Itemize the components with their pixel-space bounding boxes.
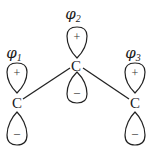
orbital-phi1: φ1 + C – (6, 44, 27, 145)
carbon-atom-phi1: C (12, 95, 22, 111)
bond-c2-c3 (83, 68, 129, 99)
plus-sign-phi3: + (132, 66, 139, 80)
orbital-phi2: φ2 + C – (65, 5, 87, 103)
orbital-label-phi1: φ1 (6, 44, 22, 63)
bond-c2-c1 (23, 68, 70, 99)
carbon-atom-phi2: C (71, 58, 81, 74)
carbon-atom-phi3: C (130, 95, 140, 111)
orbital-phi3: φ3 + C – (125, 44, 145, 145)
plus-sign-phi2: + (74, 30, 81, 44)
minus-sign-phi2: – (73, 85, 81, 99)
minus-sign-phi1: – (13, 126, 21, 140)
orbital-label-phi3: φ3 (125, 44, 141, 63)
minus-sign-phi3: – (131, 126, 139, 140)
orbital-label-phi2: φ2 (65, 5, 81, 24)
plus-sign-phi1: + (14, 66, 21, 80)
allyl-orbital-diagram: φ2 + C – φ1 + C – φ3 + C – (0, 0, 156, 150)
